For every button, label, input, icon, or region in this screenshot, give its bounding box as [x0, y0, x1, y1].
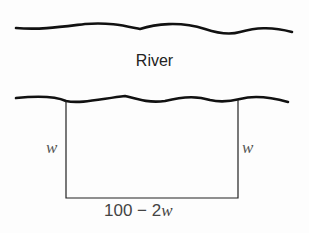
river-bank-bottom	[16, 96, 288, 102]
river-fence-diagram: River w w 100 − 2w	[0, 0, 309, 233]
bottom-label-expression: 100 − 2	[104, 201, 161, 220]
left-side-label: w	[46, 138, 57, 158]
river-label: River	[0, 52, 309, 70]
bottom-side-label: 100 − 2w	[104, 201, 173, 221]
diagram-graphics	[0, 0, 309, 233]
bottom-label-variable: w	[161, 201, 172, 220]
right-side-label: w	[242, 138, 253, 158]
river-bank-top	[16, 23, 292, 33]
fence-rectangle	[66, 100, 238, 198]
